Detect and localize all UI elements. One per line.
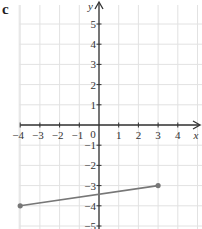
part-label: c (2, 1, 9, 17)
y-tick-label: 4 (91, 38, 97, 50)
y-axis-label: y (87, 0, 93, 12)
y-tick-label: −2 (84, 159, 96, 171)
x-tick-label: 2 (136, 129, 142, 141)
x-tick-label: −2 (52, 129, 64, 141)
origin-label: 0 (90, 128, 96, 140)
endpoint-dot (156, 183, 161, 188)
x-axis-label: x (193, 129, 199, 141)
y-tick-label: 5 (91, 18, 97, 30)
y-tick-label: −1 (84, 139, 96, 151)
x-tick-label: −3 (32, 129, 44, 141)
x-tick-label: −4 (12, 129, 24, 141)
grid-lines (19, 5, 202, 229)
tick-labels: −4−3−2−10123454321−1−2−3−4−5 (12, 18, 181, 229)
y-tick-label: −5 (84, 220, 96, 229)
y-tick-label: −4 (84, 200, 96, 212)
axes (20, 2, 200, 229)
x-tick-label: −1 (71, 129, 83, 141)
x-tick-label: 3 (155, 129, 161, 141)
y-tick-label: 3 (91, 58, 97, 70)
endpoint-dot (18, 203, 23, 208)
y-tick-label: 1 (91, 99, 97, 111)
x-tick-label: 1 (116, 129, 122, 141)
x-tick-label: 4 (175, 129, 181, 141)
coordinate-plane: c −4−3−2−10123454321−1−2−3−4−5 x y (0, 0, 202, 229)
y-tick-label: 2 (91, 79, 97, 91)
y-tick-label: −3 (84, 180, 96, 192)
